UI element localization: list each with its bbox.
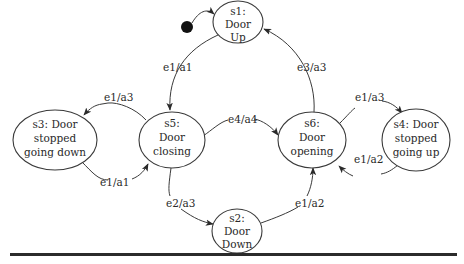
state-s5-line1: s5:: [164, 117, 180, 129]
edge-label-s6-s1: e3/a3: [297, 61, 326, 73]
state-s3: s3: Door stopped going down: [13, 110, 97, 170]
state-s2-line2: Door: [224, 225, 251, 237]
state-s6-line3: opening: [291, 145, 334, 157]
state-s4-line2: stopped: [395, 132, 438, 144]
edge-label-s1-s5: e1/a1: [163, 61, 192, 73]
edge-label-s4-s6: e1/a2: [354, 153, 383, 165]
state-s3-line2: stopped: [34, 132, 77, 144]
state-s2-line3: Down: [222, 238, 253, 250]
state-s6: s6: Door opening: [278, 112, 346, 168]
state-s2-line1: s2:: [229, 212, 245, 224]
state-diagram: e1/a1 e1/a3 e1/a1 e4/a4 e2/a3 e1/a2 e3/a…: [0, 0, 464, 264]
state-s6-line2: Door: [299, 131, 326, 143]
initial-state-dot: [181, 21, 193, 33]
edge-s5-s2: [169, 168, 213, 224]
edge-label-s5-s2: e2/a3: [166, 197, 195, 209]
edge-label-s3-s5: e1/a1: [100, 176, 129, 188]
edge-label-s6-s4: e1/a3: [355, 91, 384, 103]
edge-s5-s3: [84, 103, 146, 120]
state-s4-line1: s4: Door: [393, 118, 439, 130]
edge-s4-s6: [339, 165, 398, 176]
edge-label-s5-s3: e1/a3: [104, 91, 133, 103]
state-s3-line1: s3: Door: [32, 118, 78, 130]
state-s1-line1: s1:: [230, 5, 246, 17]
edge-label-s5-s6: e4/a4: [228, 113, 258, 125]
state-s4-line3: going up: [393, 146, 440, 158]
state-s1-line3: Up: [230, 31, 246, 43]
state-s1-line2: Door: [225, 18, 252, 30]
state-s5: s5: Door closing: [139, 112, 205, 168]
edge-label-s2-s6: e1/a2: [295, 197, 324, 209]
state-s5-line2: Door: [159, 131, 186, 143]
state-s1: s1: Door Up: [213, 1, 263, 43]
state-s4: s4: Door stopped going up: [382, 109, 450, 171]
bottom-rule: [10, 253, 457, 256]
state-s6-line1: s6:: [304, 117, 320, 129]
state-s3-line3: going down: [24, 146, 86, 158]
edge-initial-s1: [192, 11, 214, 23]
state-s5-line3: closing: [153, 145, 191, 157]
edge-s2-s6: [261, 168, 313, 223]
state-s2: s2: Door Down: [212, 209, 262, 253]
